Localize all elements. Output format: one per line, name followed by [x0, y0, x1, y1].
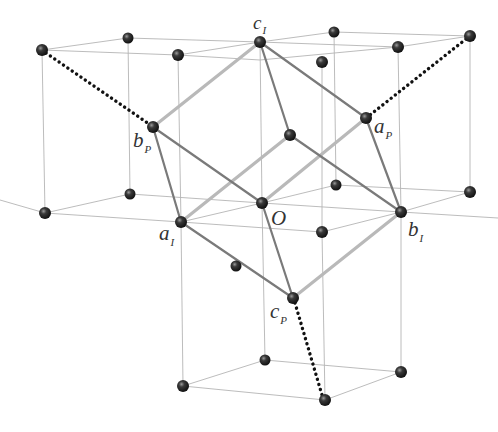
- atom-b-i: [395, 206, 407, 218]
- label-a-i: aI: [159, 221, 176, 248]
- atom-c-i: [254, 36, 266, 48]
- label-a-p: aP: [374, 114, 393, 141]
- crystal-lattice-diagram: cI bP aP O aI bI cP: [0, 0, 498, 432]
- atom-a-i: [175, 216, 187, 228]
- atom-origin: [256, 197, 268, 209]
- label-b-p: bP: [133, 128, 152, 155]
- atom-b-p: [147, 121, 159, 133]
- label-c-i: cI: [253, 12, 267, 36]
- label-c-p: cP: [270, 299, 287, 326]
- conventional-cell-edges: [0, 32, 498, 400]
- primitive-cell-bonds: [153, 42, 401, 298]
- atom-c-p: [287, 292, 299, 304]
- atom-a-p: [360, 112, 372, 124]
- label-origin: O: [271, 206, 286, 230]
- label-b-i: bI: [408, 217, 425, 244]
